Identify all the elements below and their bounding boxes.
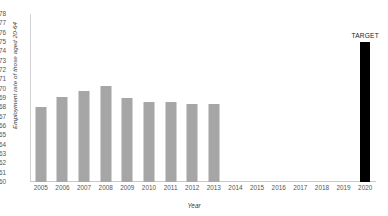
y-tick-label: 71: [0, 76, 6, 82]
bar-slot: [268, 14, 290, 182]
data-bar: [35, 107, 46, 182]
bar-slot: [95, 14, 117, 182]
y-tick-label: 74: [0, 48, 6, 54]
y-tick-label: 65: [0, 132, 6, 138]
y-tick-label: 60: [0, 179, 6, 185]
y-tick-label: 73: [0, 58, 6, 64]
y-tick-label: 76: [0, 30, 6, 36]
bar-slot: [333, 14, 355, 182]
x-axis-title: Year: [0, 202, 388, 209]
data-bar: [143, 102, 154, 182]
bar-slot: [311, 14, 333, 182]
bar-slot: [30, 14, 52, 182]
bar-slot: [117, 14, 139, 182]
y-tick-label: 67: [0, 114, 6, 120]
bar-slot: [160, 14, 182, 182]
data-bar: [100, 86, 111, 182]
target-bar: [360, 42, 370, 182]
bar-slot: [290, 14, 312, 182]
x-tick-label: 2020: [350, 184, 380, 191]
y-tick-label: 69: [0, 95, 6, 101]
data-bar: [187, 104, 198, 182]
data-bar: [208, 104, 219, 182]
y-tick-label: 77: [0, 20, 6, 26]
y-tick-label: 63: [0, 151, 6, 157]
bar-slot: [246, 14, 268, 182]
y-tick-label: 70: [0, 86, 6, 92]
y-axis-title: Employment rate of those aged 20-64: [11, 10, 18, 142]
bar-slot: TARGET: [354, 14, 376, 182]
y-tick-label: 66: [0, 123, 6, 129]
bar-slot: [181, 14, 203, 182]
data-bar: [57, 97, 68, 182]
y-tick-label: 78: [0, 11, 6, 17]
y-tick-label: 61: [0, 170, 6, 176]
x-axis-ticks: 2005200620072008200920102011201220132014…: [30, 184, 376, 196]
employment-rate-bar-chart: Employment rate of those aged 20-64 TARG…: [0, 0, 388, 216]
bar-slot: [52, 14, 74, 182]
y-tick-label: 75: [0, 39, 6, 45]
y-tick-label: 62: [0, 160, 6, 166]
data-bar: [165, 102, 176, 182]
bar-slot: [138, 14, 160, 182]
plot-area: TARGET: [30, 14, 376, 182]
y-tick-label: 68: [0, 104, 6, 110]
y-tick-label: 64: [0, 142, 6, 148]
bar-slot: [225, 14, 247, 182]
y-tick-label: 72: [0, 67, 6, 73]
data-bar: [79, 91, 90, 182]
data-bar: [122, 98, 133, 182]
bar-slot: [73, 14, 95, 182]
bar-slot: [203, 14, 225, 182]
bar-series: TARGET: [30, 14, 376, 182]
target-annotation: TARGET: [351, 32, 378, 39]
